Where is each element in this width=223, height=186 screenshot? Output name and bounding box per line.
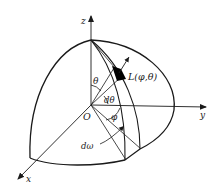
y-axis-label: y <box>199 110 206 120</box>
origin-label: O <box>83 111 91 122</box>
hemisphere-diagram: z y x O θ dθ φ dω L(φ,θ) <box>0 0 223 186</box>
diagram-svg: z y x O θ dθ φ dω L(φ,θ) <box>0 0 223 186</box>
dtheta-label: dθ <box>104 95 115 105</box>
ray-to-meridian-1-base <box>91 105 126 160</box>
domega-label: dω <box>81 141 93 151</box>
radial-lines <box>91 40 141 160</box>
bottom-boundary-arc <box>30 149 140 165</box>
radiance-label: L(φ,θ) <box>127 71 157 82</box>
phi-label: φ <box>111 112 118 122</box>
z-axis-label: z <box>80 16 86 26</box>
hemisphere-outline <box>30 40 174 165</box>
chord-top-to-patch <box>91 40 115 68</box>
domega-pointer <box>100 126 124 144</box>
y-axis <box>91 105 206 107</box>
theta-label: θ <box>93 76 99 86</box>
radiance-patch <box>112 66 126 81</box>
meridian-2 <box>91 40 140 149</box>
x-axis-label: x <box>26 174 31 184</box>
